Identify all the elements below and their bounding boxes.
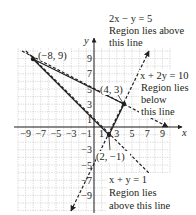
vertex-point-neg8-9 [31,57,35,61]
vertex-label-c: (2, −1) [96,151,125,163]
x-tick-label: 5 [130,128,135,139]
annotation-line3-text1: Region lies [109,187,157,198]
annotation-line1-text1: Region lies above [109,25,185,36]
annotation-line2-text1: Region lies [141,82,189,93]
x-tick-label: −1 [81,128,92,139]
y-tick-label: 9 [87,53,92,64]
annotation-line2-eq: x + 2y = 10 [140,70,189,81]
annotation-line1-text2: this line [109,37,143,48]
x-tick-label: −3 [66,128,77,139]
vertex-point-2-neg1 [107,133,111,137]
y-tick-label: −9 [81,190,92,201]
y-tick-label: 7 [87,68,92,79]
vertex-label-a: (−8, 9) [38,50,67,62]
annotation-line2-text3: this line [141,106,175,117]
x-axis-label: x [181,127,187,138]
inequality-graph: x y −9−7−5−3−113579 97531−3−5−7−9 (−8, 9… [0,0,196,215]
y-axis-label: y [83,35,89,46]
x-tick-labels: −9−7−5−3−113579 [20,128,165,139]
annotation-line3-eq: x + y = 1 [109,174,147,185]
leader-line-c [109,137,110,150]
annotation-line3-text2: above this line [109,200,171,211]
y-tick-label: −7 [81,175,92,186]
x-tick-label: −9 [20,128,31,139]
y-tick-label: 3 [87,99,92,110]
annotation-line1-eq: 2x − y = 5 [109,13,152,24]
annotation-line1: 2x − y = 5 Region lies above this line [109,13,185,48]
vertex-label-b: (4, 3) [100,84,123,96]
x-tick-label: −5 [51,128,62,139]
x-tick-label: 3 [114,128,119,139]
annotation-line2-text2: below [141,94,167,105]
y-tick-label: −3 [81,144,92,155]
x-tick-label: 9 [160,128,165,139]
y-tick-label: −5 [81,160,92,171]
x-tick-label: 7 [145,128,150,139]
y-tick-label: 5 [87,84,92,95]
x-tick-label: −7 [35,128,46,139]
